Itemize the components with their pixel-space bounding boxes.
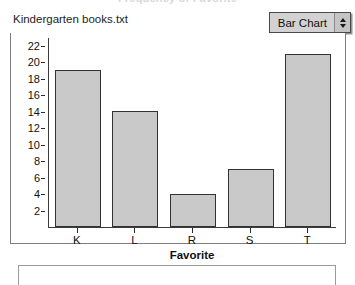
bar-L[interactable]: [112, 111, 158, 227]
y-tick-label: 20: [28, 57, 40, 68]
y-tick-label: 16: [28, 90, 40, 101]
x-tick-mark: [134, 228, 135, 233]
bars-group: [49, 38, 336, 227]
y-axis: 246810121416182022: [12, 36, 40, 238]
y-tick: 22: [28, 41, 40, 52]
y-tick: 18: [28, 74, 40, 85]
y-tick-label: 4: [34, 189, 40, 200]
y-tick-mark: [41, 161, 45, 162]
y-tick-label: 6: [34, 173, 40, 184]
y-tick-label: 12: [28, 123, 40, 134]
x-tick-label: L: [131, 234, 137, 246]
x-tick-label: S: [246, 234, 254, 246]
y-tick-label: 2: [34, 206, 40, 217]
bar-R[interactable]: [170, 194, 216, 227]
y-tick-mark: [41, 79, 45, 80]
y-tick-mark: [41, 62, 45, 63]
bottom-panel: [18, 265, 336, 285]
y-tick-mark: [41, 46, 45, 47]
window-title-strip: Frequency of Favorite: [0, 0, 355, 9]
x-tick-label: R: [188, 234, 196, 246]
x-tick-mark: [307, 228, 308, 233]
y-tick-label: 22: [28, 41, 40, 52]
y-tick-mark: [41, 128, 45, 129]
triangle-down-icon: [340, 24, 346, 28]
x-tick-label: K: [73, 234, 81, 246]
y-tick-mark: [41, 211, 45, 212]
y-tick-label: 14: [28, 107, 40, 118]
y-tick-label: 18: [28, 74, 40, 85]
y-tick: 10: [28, 140, 40, 151]
y-tick: 4: [34, 189, 40, 200]
y-tick: 6: [34, 173, 40, 184]
bar-T[interactable]: [285, 54, 331, 227]
window-title: Frequency of Favorite: [0, 0, 355, 4]
bar-K[interactable]: [55, 70, 101, 227]
y-tick-mark: [41, 194, 45, 195]
x-tick-mark: [192, 228, 193, 233]
x-tick-mark: [250, 228, 251, 233]
y-tick: 16: [28, 90, 40, 101]
y-tick: 20: [28, 57, 40, 68]
y-tick: 14: [28, 107, 40, 118]
y-tick-mark: [41, 178, 45, 179]
chart-header: Kindergarten books.txt Bar Chart: [0, 11, 355, 35]
y-tick-mark: [41, 112, 45, 113]
x-tick-mark: [77, 228, 78, 233]
dataset-name-label: Kindergarten books.txt: [13, 13, 128, 25]
y-tick: 2: [34, 206, 40, 217]
y-tick-mark: [41, 145, 45, 146]
up-down-arrows-icon: [334, 13, 350, 32]
triangle-up-icon: [340, 18, 346, 22]
chart-type-popup-menu[interactable]: Bar Chart: [269, 12, 351, 33]
y-tick-label: 8: [34, 156, 40, 167]
y-tick-mark: [41, 95, 45, 96]
y-tick-label: 10: [28, 140, 40, 151]
chart-type-value: Bar Chart: [270, 13, 334, 32]
y-tick: 8: [34, 156, 40, 167]
x-tick-label: T: [304, 234, 311, 246]
x-axis-title: Favorite: [48, 249, 336, 261]
plot-area: [48, 38, 336, 228]
y-tick: 12: [28, 123, 40, 134]
bar-S[interactable]: [228, 169, 274, 227]
